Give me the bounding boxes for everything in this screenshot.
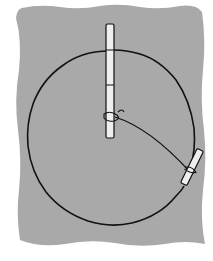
circle-drawing-diagram <box>0 0 213 261</box>
